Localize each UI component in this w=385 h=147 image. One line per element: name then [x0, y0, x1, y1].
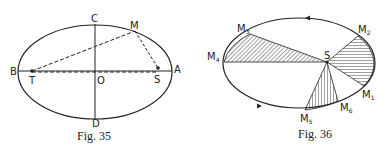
caption-fig-36: Fig. 36: [298, 127, 332, 141]
label-S: S: [324, 50, 330, 61]
label-M6: M6: [340, 102, 353, 114]
kepler-diagrams: C M B A T O S D Fig. 35 S M3 M4 M2 M1 M6…: [0, 0, 385, 147]
label-B: B: [10, 66, 17, 77]
sector-M3-M4: [224, 34, 327, 62]
focus-T: [30, 69, 34, 73]
label-O: O: [97, 75, 105, 86]
label-M2: M2: [358, 24, 371, 36]
label-D: D: [92, 118, 100, 129]
label-M: M: [130, 20, 139, 31]
dashed-TM: [32, 31, 135, 71]
arrow-bottom-icon: [257, 104, 262, 109]
arrow-top-icon: [305, 16, 310, 21]
label-M1: M1: [362, 89, 375, 101]
label-S: S: [154, 74, 160, 85]
figure-35: C M B A T O S D Fig. 35: [10, 13, 181, 143]
label-M3: M3: [237, 23, 250, 35]
label-T: T: [28, 75, 36, 86]
label-A: A: [174, 64, 181, 75]
label-M5: M5: [300, 113, 313, 125]
label-M4: M4: [207, 51, 220, 63]
figure-36: S M3 M4 M2 M1 M6 M5 Fig. 36: [207, 16, 375, 142]
label-C: C: [91, 13, 98, 24]
focus-S: [156, 66, 160, 70]
caption-fig-35: Fig. 35: [77, 129, 111, 143]
